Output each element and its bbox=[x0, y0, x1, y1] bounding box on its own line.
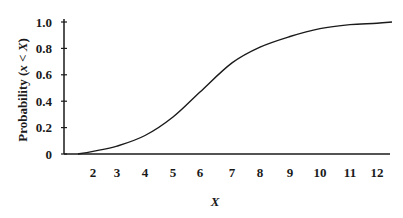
x-tick-label: 12 bbox=[371, 165, 384, 180]
x-axis: 23456789101112 bbox=[64, 154, 390, 180]
x-tick-label: 9 bbox=[287, 165, 294, 180]
y-tick-label: 0.4 bbox=[36, 94, 53, 109]
y-tick-label: 0.8 bbox=[36, 41, 53, 56]
cumulative-probability-chart: 00.20.40.60.81.0 23456789101112 Probabil… bbox=[0, 0, 403, 218]
x-axis-title: X bbox=[210, 194, 220, 209]
x-tick-label: 2 bbox=[90, 165, 97, 180]
cdf-curve bbox=[78, 22, 392, 154]
y-tick-label: 0.2 bbox=[36, 120, 52, 135]
x-tick-label: 11 bbox=[344, 165, 356, 180]
y-axis-title: Probability (x < X) bbox=[15, 38, 30, 142]
y-axis: 00.20.40.60.81.0 bbox=[36, 15, 67, 162]
y-tick-label: 0 bbox=[46, 147, 53, 162]
x-tick-label: 5 bbox=[170, 165, 177, 180]
y-tick-label: 1.0 bbox=[36, 15, 52, 30]
x-tick-label: 10 bbox=[314, 165, 327, 180]
x-tick-label: 8 bbox=[257, 165, 264, 180]
x-tick-label: 6 bbox=[197, 165, 204, 180]
x-tick-label: 3 bbox=[114, 165, 121, 180]
x-tick-label: 4 bbox=[142, 165, 149, 180]
y-tick-label: 0.6 bbox=[36, 67, 53, 82]
x-tick-label: 7 bbox=[229, 165, 236, 180]
